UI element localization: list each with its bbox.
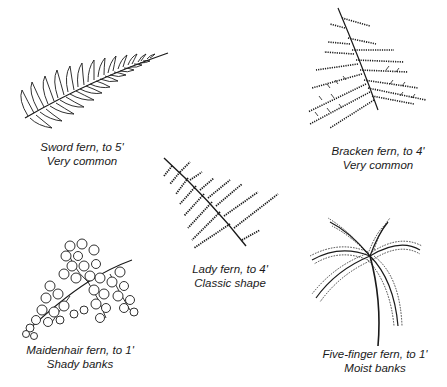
lady-fern-name: Lady fern, to 4' (180, 262, 280, 276)
lady-fern-habitat: Classic shape (180, 276, 280, 290)
five-finger-fern-illustration (290, 210, 447, 350)
bracken-fern-habitat: Very common (318, 158, 438, 172)
sword-fern-name: Sword fern, to 5' (22, 140, 142, 154)
maidenhair-fern-caption: Maidenhair fern, to 1' Shady banks (20, 343, 140, 371)
lady-fern-caption: Lady fern, to 4' Classic shape (180, 262, 280, 290)
bracken-fern-name: Bracken fern, to 4' (318, 144, 438, 158)
bracken-fern-caption: Bracken fern, to 4' Very common (318, 144, 438, 172)
maidenhair-fern-habitat: Shady banks (20, 357, 140, 371)
five-finger-fern-name: Five-finger fern, to 1' (310, 347, 440, 361)
maidenhair-fern-name: Maidenhair fern, to 1' (20, 343, 140, 357)
maidenhair-fern-illustration (0, 230, 150, 340)
sword-fern-habitat: Very common (22, 154, 142, 168)
sword-fern-caption: Sword fern, to 5' Very common (22, 140, 142, 168)
sword-fern-illustration (0, 20, 180, 130)
five-finger-fern-caption: Five-finger fern, to 1' Moist banks (310, 347, 440, 375)
lady-fern-illustration (150, 150, 310, 260)
five-finger-fern-habitat: Moist banks (310, 361, 440, 375)
bracken-fern-illustration (290, 0, 447, 140)
